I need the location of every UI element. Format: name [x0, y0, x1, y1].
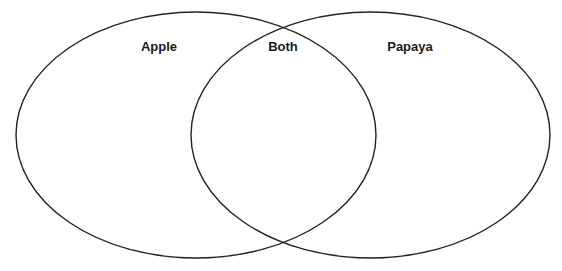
venn-set-papaya: [191, 12, 550, 258]
label-apple: Apple: [141, 39, 177, 54]
label-papaya: Papaya: [387, 39, 433, 54]
label-both: Both: [268, 39, 298, 54]
venn-set-apple: [16, 12, 376, 258]
venn-diagram: Apple Both Papaya: [0, 0, 562, 271]
